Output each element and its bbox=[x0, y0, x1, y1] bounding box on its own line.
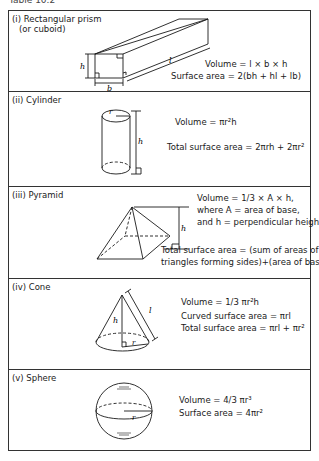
surface-area-formula: Total surface area = πrl + πr² bbox=[181, 323, 305, 334]
row-rectangular-prism: (i) Rectangular prism (or cuboid) bbox=[9, 11, 310, 92]
surface-area-formula: Surface area = 2(bh + hl + lb) bbox=[171, 71, 301, 82]
svg-text:l: l bbox=[149, 306, 152, 315]
volume-formula: Volume = πr²h bbox=[175, 117, 237, 128]
formula-table: (i) Rectangular prism (or cuboid) bbox=[8, 10, 311, 451]
row-sphere: (v) Sphere r Volume = 4/3 πr³ Surface ar… bbox=[9, 370, 310, 450]
cylinder-diagram: r h bbox=[9, 92, 310, 187]
volume-formula: Volume = 1/3 πr²h bbox=[181, 297, 259, 308]
table-caption: Table 10.2 bbox=[9, 0, 55, 5]
svg-text:l: l bbox=[169, 56, 172, 65]
where-height-text: and h = perpendicular height bbox=[197, 217, 319, 228]
sphere-diagram: r bbox=[9, 370, 310, 450]
where-area-text: where A = area of base, bbox=[197, 205, 300, 216]
surface-area-formula-2: triangles forming sides)+(area of base) bbox=[161, 257, 319, 268]
volume-formula: Volume = 1/3 × A × h, bbox=[197, 193, 294, 204]
svg-text:h: h bbox=[181, 224, 186, 233]
dim-h: h bbox=[80, 62, 85, 71]
svg-text:h: h bbox=[138, 137, 143, 146]
svg-text:h: h bbox=[113, 316, 118, 325]
surface-area-formula: Surface area = 4πr² bbox=[179, 408, 263, 419]
row-pyramid: (iii) Pyramid h Volume = 1/3 × A × h, wh… bbox=[9, 187, 310, 279]
row-cone: (iv) Cone h r l Volume = 1/3 πr²h Curved… bbox=[9, 279, 310, 370]
svg-text:b: b bbox=[107, 84, 112, 92]
row-cylinder: (ii) Cylinder r h Volume = πr²h Total su… bbox=[9, 92, 310, 187]
volume-formula: Volume = l × b × h bbox=[205, 59, 287, 70]
volume-formula: Volume = 4/3 πr³ bbox=[179, 395, 252, 406]
surface-area-formula-1: Total surface area = (sum of areas of bbox=[161, 245, 318, 256]
surface-area-formula: Total surface area = 2πrh + 2πr² bbox=[167, 142, 304, 153]
curved-area-formula: Curved surface area = πrl bbox=[181, 311, 291, 322]
svg-text:r: r bbox=[109, 108, 113, 116]
